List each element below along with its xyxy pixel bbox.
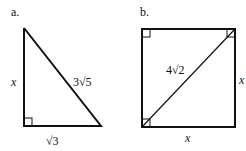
side-x-label-b-bottom: x [185, 132, 190, 144]
hypotenuse-label-a: 3√5 [73, 76, 92, 88]
base-label-a: √3 [46, 135, 59, 147]
diagonal-b [142, 29, 235, 127]
right-angle-mark-top-left [142, 29, 150, 37]
figure-b-label: b. [140, 6, 149, 18]
diagram-canvas [0, 0, 246, 151]
square-b [142, 29, 235, 127]
side-x-label-b-right: x [239, 74, 244, 86]
right-angle-mark-a [24, 118, 32, 126]
figure-a-label: a. [11, 6, 19, 18]
diagonal-label-b: 4√2 [166, 64, 185, 76]
side-x-label-a: x [11, 76, 16, 88]
